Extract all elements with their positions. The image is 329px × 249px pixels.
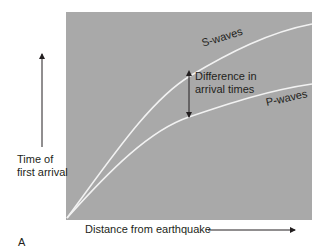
- y-axis-label-line2: first arrival: [17, 166, 68, 179]
- difference-label-line2: arrival times: [195, 83, 254, 96]
- panel-label: A: [18, 236, 25, 249]
- x-axis-label: Distance from earthquake: [85, 223, 211, 236]
- y-axis-label-line1: Time of: [17, 153, 53, 166]
- difference-label-line1: Difference in: [195, 70, 257, 83]
- diagram-canvas: [0, 0, 329, 249]
